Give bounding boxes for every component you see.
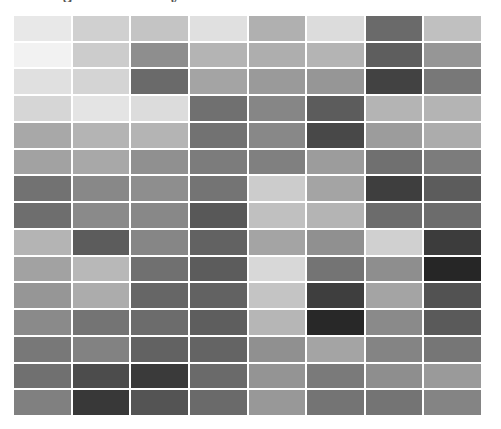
heatmap-cell <box>424 337 481 362</box>
heatmap-cell <box>14 69 71 94</box>
heatmap-cell <box>307 150 364 175</box>
heatmap-cell <box>73 310 130 335</box>
heatmap-cell <box>249 310 306 335</box>
heatmap-cell <box>131 43 188 68</box>
heatmap-cell <box>424 123 481 148</box>
heatmap-cell <box>14 257 71 282</box>
heatmap-cell <box>249 123 306 148</box>
heatmap-cell <box>14 96 71 121</box>
heatmap-cell <box>190 283 247 308</box>
heatmap-cell <box>14 310 71 335</box>
heatmap-cell <box>14 230 71 255</box>
heatmap-cell <box>190 150 247 175</box>
heatmap-cell <box>307 203 364 228</box>
heatmap-cell <box>249 230 306 255</box>
heatmap-cell <box>14 337 71 362</box>
heatmap-cell <box>424 390 481 415</box>
heatmap-cell <box>73 150 130 175</box>
heatmap-cell <box>190 69 247 94</box>
heatmap-cell <box>249 283 306 308</box>
heatmap-cell <box>131 150 188 175</box>
title-fragment-g: g <box>62 0 74 2</box>
heatmap-cell <box>190 230 247 255</box>
heatmap-cell <box>249 43 306 68</box>
heatmap-cell <box>190 123 247 148</box>
heatmap-cell <box>307 176 364 201</box>
heatmap-cell <box>366 123 423 148</box>
heatmap-cell <box>249 150 306 175</box>
heatmap-cell <box>73 337 130 362</box>
heatmap-cell <box>131 230 188 255</box>
heatmap-cell <box>249 390 306 415</box>
heatmap-cell <box>424 257 481 282</box>
heatmap-cell <box>307 69 364 94</box>
heatmap-cell <box>14 283 71 308</box>
heatmap-cell <box>190 96 247 121</box>
heatmap-cell <box>366 150 423 175</box>
heatmap-cell <box>366 69 423 94</box>
heatmap-cell <box>73 96 130 121</box>
heatmap-cell <box>73 230 130 255</box>
heatmap-cell <box>131 176 188 201</box>
heatmap-cell <box>424 203 481 228</box>
heatmap-cell <box>366 176 423 201</box>
heatmap-cell <box>14 176 71 201</box>
heatmap-cell <box>131 337 188 362</box>
heatmap-cell <box>366 364 423 389</box>
heatmap-cell <box>14 150 71 175</box>
heatmap-cell <box>190 364 247 389</box>
heatmap-cell <box>131 390 188 415</box>
heatmap-cell <box>424 230 481 255</box>
heatmap-cell <box>14 390 71 415</box>
heatmap-cell <box>73 364 130 389</box>
heatmap-cell <box>424 364 481 389</box>
heatmap-cell <box>307 283 364 308</box>
heatmap-cell <box>366 283 423 308</box>
heatmap-cell <box>190 310 247 335</box>
heatmap-grid <box>14 16 481 415</box>
heatmap-cell <box>131 96 188 121</box>
heatmap-cell <box>190 16 247 41</box>
heatmap-cell <box>73 69 130 94</box>
heatmap-cell <box>131 16 188 41</box>
heatmap-cell <box>73 390 130 415</box>
heatmap-cell <box>73 203 130 228</box>
heatmap-cell <box>249 96 306 121</box>
heatmap-cell <box>249 176 306 201</box>
heatmap-cell <box>190 176 247 201</box>
heatmap-cell <box>73 257 130 282</box>
heatmap-cell <box>14 364 71 389</box>
heatmap-cell <box>14 203 71 228</box>
heatmap-cell <box>14 43 71 68</box>
heatmap-cell <box>73 16 130 41</box>
heatmap-cell <box>131 123 188 148</box>
heatmap-cell <box>249 364 306 389</box>
heatmap-cell <box>366 16 423 41</box>
heatmap-cell <box>249 16 306 41</box>
heatmap-cell <box>14 123 71 148</box>
title-fragment-y: y <box>168 0 178 2</box>
heatmap-cell <box>366 337 423 362</box>
heatmap-cell <box>190 390 247 415</box>
heatmap-cell <box>366 203 423 228</box>
heatmap-cell <box>424 283 481 308</box>
heatmap-cell <box>307 257 364 282</box>
heatmap-cell <box>307 390 364 415</box>
heatmap-cell <box>366 257 423 282</box>
heatmap-cell <box>73 283 130 308</box>
heatmap-cell <box>73 176 130 201</box>
heatmap-cell <box>424 310 481 335</box>
heatmap-cell <box>424 43 481 68</box>
heatmap-cell <box>307 96 364 121</box>
heatmap-cell <box>366 390 423 415</box>
heatmap-cell <box>131 283 188 308</box>
heatmap-cell <box>424 96 481 121</box>
heatmap-cell <box>190 257 247 282</box>
heatmap-cell <box>14 16 71 41</box>
heatmap-cell <box>190 203 247 228</box>
heatmap-cell <box>366 310 423 335</box>
heatmap-cell <box>366 43 423 68</box>
heatmap-cell <box>424 176 481 201</box>
heatmap-cell <box>307 123 364 148</box>
heatmap-cell <box>131 203 188 228</box>
